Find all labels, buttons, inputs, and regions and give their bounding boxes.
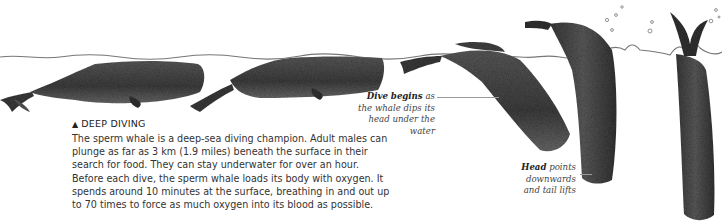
annotation-dive-begins: Dive begins as the whale dips its head u… [352, 91, 435, 137]
leader-line-dive [437, 97, 499, 98]
triangle-up-icon: ▲ [72, 120, 78, 129]
deep-diving-section: ▲DEEP DIVING The sperm whale is a deep-s… [72, 118, 392, 211]
annotation-dive-bold: Dive begins [367, 91, 423, 101]
whale-vertical-icon [670, 12, 715, 220]
section-body: The sperm whale is a deep-sea diving cha… [72, 132, 392, 211]
whale-resting-icon [0, 61, 204, 112]
annotation-head-bold: Head [521, 162, 546, 172]
water-surface-line [0, 44, 722, 59]
section-title-text: DEEP DIVING [81, 118, 145, 129]
annotation-head-points: Head points downwards and tail lifts [520, 162, 576, 197]
section-title: ▲DEEP DIVING [72, 118, 392, 131]
leader-line-head [580, 174, 592, 175]
